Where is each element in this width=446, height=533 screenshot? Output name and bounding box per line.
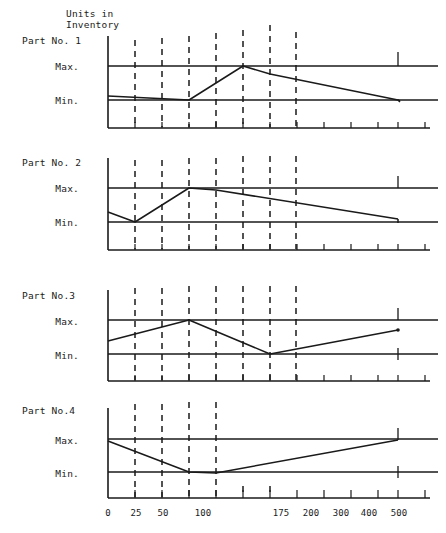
tick-label-25: 25 bbox=[131, 508, 142, 518]
panel-part-no-3: Part No.3 Max. Min. bbox=[22, 286, 438, 381]
max-label-3: Max. bbox=[55, 316, 79, 327]
x-axis-ticks-4 bbox=[135, 490, 425, 498]
inventory-trace-4 bbox=[108, 440, 398, 473]
max-label-2: Max. bbox=[55, 183, 79, 194]
tick-label-200: 200 bbox=[303, 508, 319, 518]
x-axis-ticks-1 bbox=[135, 122, 425, 128]
panel-label-1: Part No. 1 bbox=[22, 35, 81, 46]
panel-label-3: Part No.3 bbox=[22, 290, 75, 301]
max-label-4: Max. bbox=[55, 435, 79, 446]
min-label-4: Min. bbox=[55, 468, 79, 479]
panel-part-no-2: Part No. 2 Max. Min. bbox=[22, 156, 438, 250]
min-label-2: Min. bbox=[55, 217, 79, 228]
min-label-3: Min. bbox=[55, 350, 79, 361]
min-label-1: Min. bbox=[55, 95, 79, 106]
gridlines-3 bbox=[135, 286, 296, 380]
inventory-trace-2 bbox=[108, 188, 398, 222]
x-axis-ticks-3 bbox=[135, 375, 425, 381]
tick-label-400: 400 bbox=[361, 508, 377, 518]
panel-part-no-1: Part No. 1 Max. Min. bbox=[22, 25, 438, 128]
y-axis-title-line1: Units in bbox=[66, 8, 113, 19]
tick-label-100: 100 bbox=[195, 508, 211, 518]
panel-label-2: Part No. 2 bbox=[22, 157, 81, 168]
gridlines-2 bbox=[135, 156, 296, 249]
tick-label-300: 300 bbox=[333, 508, 349, 518]
gridlines-4 bbox=[135, 402, 270, 497]
tick-label-50: 50 bbox=[158, 508, 169, 518]
x-axis-tick-labels: 0 25 50 100 175 200 300 400 500 bbox=[105, 508, 407, 518]
tick-label-0: 0 bbox=[105, 508, 110, 518]
gridlines-1 bbox=[135, 25, 296, 127]
tick-label-175: 175 bbox=[273, 508, 289, 518]
x-axis-ticks-2 bbox=[135, 244, 425, 250]
inventory-trace-3 bbox=[108, 320, 398, 354]
tick-label-500: 500 bbox=[391, 508, 407, 518]
inventory-trace-1 bbox=[108, 66, 400, 101]
panel-label-4: Part No.4 bbox=[22, 405, 75, 416]
trace-end-dot-3 bbox=[396, 328, 400, 332]
inventory-level-figure: Units in Inventory Part No. 1 Max. Min. bbox=[0, 0, 446, 533]
panel-part-no-4: Part No.4 Max. Min. bbox=[22, 402, 438, 518]
max-label-1: Max. bbox=[55, 61, 79, 72]
y-axis-title-line2: Inventory bbox=[66, 19, 119, 30]
